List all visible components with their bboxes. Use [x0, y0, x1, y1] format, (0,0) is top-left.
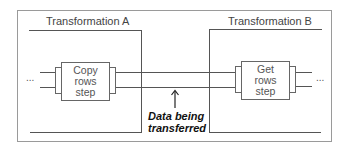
- transformation-a-top-border: [29, 30, 142, 31]
- ellipsis-right: ...: [316, 72, 324, 83]
- up-arrow-icon: [170, 88, 180, 108]
- transformation-a-bottom-border: [30, 132, 142, 133]
- get-rows-step-line3: step: [242, 86, 289, 97]
- data-transfer-caption: Data being transferred: [148, 110, 206, 134]
- transformation-b-top-border: [209, 29, 322, 30]
- copy-rows-step[interactable]: Copy rows step: [61, 62, 110, 101]
- input-line-top-a: [40, 72, 56, 73]
- copy-rows-step-line3: step: [62, 87, 109, 98]
- input-line-bottom-a: [40, 87, 56, 88]
- transformation-b-title: Transformation B: [228, 15, 312, 27]
- transformation-b-bottom-border: [209, 132, 321, 133]
- caption-line2: transferred: [148, 122, 206, 134]
- transformation-b-left-border: [209, 29, 210, 133]
- caption-line1: Data being: [148, 110, 206, 122]
- transformation-a-title: Transformation A: [46, 15, 129, 27]
- transformation-a-right-border: [141, 30, 142, 133]
- transfer-pipe-top: [116, 72, 236, 73]
- output-line-bottom-b: [296, 86, 312, 87]
- ellipsis-left: ...: [26, 72, 34, 83]
- get-rows-step[interactable]: Get rows step: [241, 61, 290, 100]
- output-line-top-b: [296, 72, 312, 73]
